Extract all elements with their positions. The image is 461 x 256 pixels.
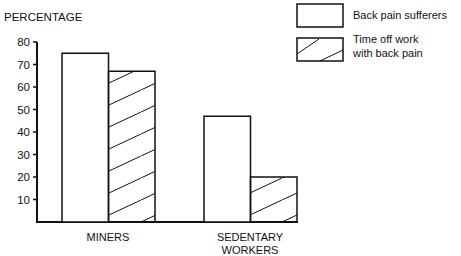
x-tick-label: WORKERS [222,244,279,256]
legend-swatch [297,4,343,27]
y-axis-title: PERCENTAGE [4,11,83,23]
y-tick-label: 50 [17,104,30,116]
y-tick-label: 60 [17,81,30,93]
y-tick-label: 40 [17,126,30,138]
legend-label: Time off work [353,33,419,45]
y-tick-label: 80 [17,36,30,48]
bar-back-pain [204,116,251,222]
y-tick-label: 20 [17,171,30,183]
bar-time-off [109,71,156,222]
legend-label: Back pain sufferers [353,9,447,21]
x-axis-labels: MINERSSEDENTARYWORKERS [87,231,284,256]
legend: Back pain sufferersTime off workwith bac… [297,4,447,61]
bar-time-off [251,177,298,222]
y-tick-label: 70 [17,59,30,71]
x-tick-label: SEDENTARY [217,231,284,243]
bar-chart: PERCENTAGE 1020304050607080 MINERSSEDENT… [0,0,461,256]
legend-label: with back pain [352,47,423,59]
bars [62,53,297,222]
y-tick-label: 10 [17,194,30,206]
y-tick-label: 30 [17,149,30,161]
x-tick-label: MINERS [87,231,130,243]
bar-back-pain [62,53,109,222]
